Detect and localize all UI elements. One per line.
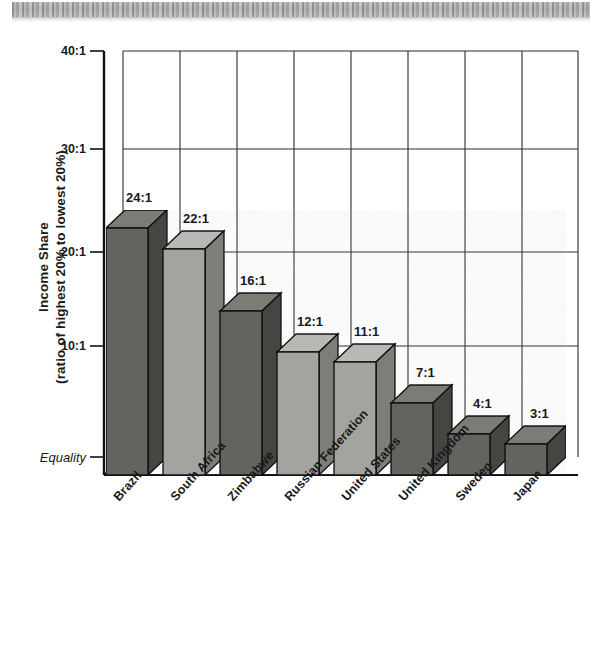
value-label-united-kingdom: 7:1 — [416, 365, 435, 380]
value-label-south-africa: 22:1 — [183, 211, 209, 226]
value-label-united-states: 11:1 — [354, 324, 379, 339]
value-label-russian-federation: 12:1 — [297, 314, 323, 329]
y-axis-ticks — [90, 51, 104, 457]
value-label-zimbabwe: 16:1 — [240, 273, 266, 288]
income-share-bar-chart: Income Share (ratio of highest 20% to lo… — [0, 0, 602, 651]
bar-zimbabwe — [220, 293, 281, 475]
value-label-brazil: 24:1 — [126, 190, 152, 205]
bar-south-africa — [163, 231, 224, 475]
value-label-sweden: 4:1 — [473, 396, 492, 411]
value-label-japan: 3:1 — [530, 406, 549, 421]
bar-brazil — [106, 210, 167, 475]
